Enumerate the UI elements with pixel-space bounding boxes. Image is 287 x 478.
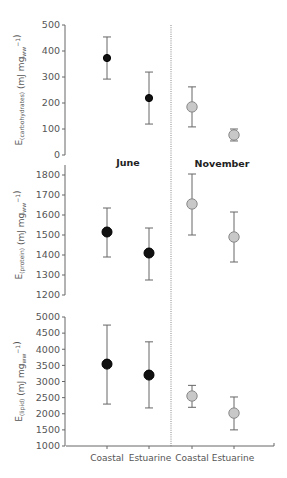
- y-tick-label: 400: [42, 45, 60, 56]
- x-label-coastal-november: Coastal: [175, 453, 209, 463]
- x-axis: Coastal Estuarine Coastal Estuarine: [66, 443, 274, 463]
- panel-protein: 1200130014001500160017001800E(protein) (…: [12, 165, 239, 300]
- data-point-november-estuarine: [229, 212, 239, 262]
- panel-lipid: 100015002000250030003500400045005000E(li…: [12, 311, 239, 451]
- y-tick-label: 100: [42, 123, 60, 134]
- data-point-november-coastal: [187, 87, 197, 127]
- y-tick-label: 5000: [36, 311, 60, 322]
- y-tick-label: 500: [42, 19, 60, 30]
- panel-carbohydrates: 0100200300400500E(carbohydrates) (mJ mgw…: [12, 19, 239, 160]
- data-point-june-coastal: [102, 208, 112, 257]
- y-tick-label: 1300: [36, 269, 60, 280]
- data-point-november-coastal: [187, 174, 197, 235]
- chart-figure: 0100200300400500E(carbohydrates) (mJ mgw…: [0, 0, 287, 478]
- y-axis-title-carbohydrates: E(carbohydrates) (mJ mgww−1): [12, 34, 27, 145]
- y-tick-label: 4500: [36, 327, 60, 338]
- y-axis-title-lipid: E(lipid) (mJ mgww−1): [12, 341, 27, 421]
- data-point-november-coastal: [187, 385, 197, 407]
- y-tick-label: 1200: [36, 289, 60, 300]
- y-tick-label: 300: [42, 71, 60, 82]
- data-point-june-estuarine: [145, 72, 153, 124]
- season-label-june: June: [115, 157, 140, 168]
- y-tick-label: 3000: [36, 376, 60, 387]
- data-point-june-estuarine: [144, 228, 154, 280]
- data-point-november-estuarine: [229, 129, 239, 141]
- x-label-coastal-june: Coastal: [90, 453, 124, 463]
- y-tick-label: 200: [42, 97, 60, 108]
- chart-panels: 0100200300400500E(carbohydrates) (mJ mgw…: [12, 19, 239, 451]
- y-tick-label: 4000: [36, 344, 60, 355]
- data-point-june-coastal: [103, 37, 111, 79]
- data-point-june-estuarine: [144, 342, 154, 408]
- season-label-november: November: [195, 158, 250, 169]
- x-label-estuarine-june: Estuarine: [129, 453, 172, 463]
- y-tick-label: 1500: [36, 424, 60, 435]
- y-tick-label: 1600: [36, 209, 60, 220]
- data-point-june-coastal: [102, 325, 112, 404]
- y-tick-label: 3500: [36, 360, 60, 371]
- y-tick-label: 2500: [36, 392, 60, 403]
- y-tick-label: 1700: [36, 189, 60, 200]
- y-tick-label: 0: [54, 149, 60, 160]
- x-label-estuarine-november: Estuarine: [212, 453, 255, 463]
- y-tick-label: 2000: [36, 408, 60, 419]
- y-tick-label: 1800: [36, 169, 60, 180]
- data-point-november-estuarine: [229, 397, 239, 430]
- y-axis-title-protein: E(protein) (mJ mgww−1): [12, 190, 27, 279]
- y-tick-label: 1500: [36, 229, 60, 240]
- y-tick-label: 1400: [36, 249, 60, 260]
- y-tick-label: 1000: [36, 440, 60, 451]
